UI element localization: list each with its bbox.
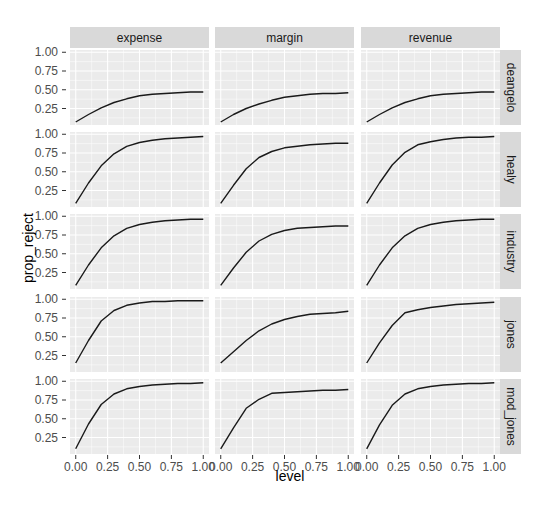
panel-industry-expense: [70, 214, 209, 289]
panel-jones-revenue: [361, 297, 500, 372]
panel-healy-expense: [70, 132, 209, 207]
panel-mod_jones-expense: [70, 379, 209, 454]
svg-text:margin: margin: [266, 31, 303, 45]
y-tick-label: 1.00: [35, 127, 59, 141]
panel-jones-expense: [70, 297, 209, 372]
panel-industry-margin: [215, 214, 354, 289]
faceted-line-chart: expensemarginrevenuedeangelo0.250.500.75…: [0, 0, 540, 507]
y-tick-label: 0.50: [35, 330, 59, 344]
panel-healy-margin: [215, 132, 354, 207]
y-tick-label: 0.75: [35, 146, 59, 160]
panel-mod_jones-revenue: [361, 379, 500, 454]
y-tick-label: 0.50: [35, 412, 59, 426]
y-tick-label: 1.00: [35, 292, 59, 306]
strip-healy: healy: [500, 132, 521, 207]
panel-deangelo-revenue: [361, 50, 500, 125]
panel-deangelo-expense: [70, 50, 209, 125]
svg-text:revenue: revenue: [409, 31, 453, 45]
y-tick-label: 0.50: [35, 83, 59, 97]
panel-mod_jones-margin: [215, 379, 354, 454]
strip-margin: margin: [215, 27, 354, 48]
svg-text:deangelo: deangelo: [504, 63, 518, 113]
y-tick-label: 0.25: [35, 102, 59, 116]
strip-revenue: revenue: [361, 27, 500, 48]
x-axis-title: level: [0, 468, 540, 484]
svg-text:mod_jones: mod_jones: [504, 387, 518, 446]
y-tick-label: 0.75: [35, 64, 59, 78]
y-tick-label: 0.50: [35, 165, 59, 179]
panel-jones-margin: [215, 297, 354, 372]
strip-jones: jones: [500, 297, 521, 372]
y-tick-label: 1.00: [35, 45, 59, 59]
panel-healy-revenue: [361, 132, 500, 207]
y-tick-label: 1.00: [35, 209, 59, 223]
y-tick-label: 0.50: [35, 247, 59, 261]
y-axis-title: prop_reject: [20, 208, 36, 288]
strip-deangelo: deangelo: [500, 50, 521, 125]
svg-text:expense: expense: [117, 31, 163, 45]
strip-mod_jones: mod_jones: [500, 379, 521, 454]
y-tick-label: 0.75: [35, 393, 59, 407]
y-tick-label: 0.25: [35, 431, 59, 445]
svg-text:industry: industry: [504, 230, 518, 272]
panel-deangelo-margin: [215, 50, 354, 125]
y-tick-label: 0.75: [35, 311, 59, 325]
y-tick-label: 0.25: [35, 349, 59, 363]
panel-industry-revenue: [361, 214, 500, 289]
y-tick-label: 0.25: [35, 184, 59, 198]
y-tick-label: 0.25: [35, 266, 59, 280]
svg-text:jones: jones: [504, 319, 518, 349]
strip-expense: expense: [70, 27, 209, 48]
strip-industry: industry: [500, 214, 521, 289]
y-tick-label: 0.75: [35, 228, 59, 242]
svg-text:healy: healy: [504, 155, 518, 184]
y-tick-label: 1.00: [35, 374, 59, 388]
